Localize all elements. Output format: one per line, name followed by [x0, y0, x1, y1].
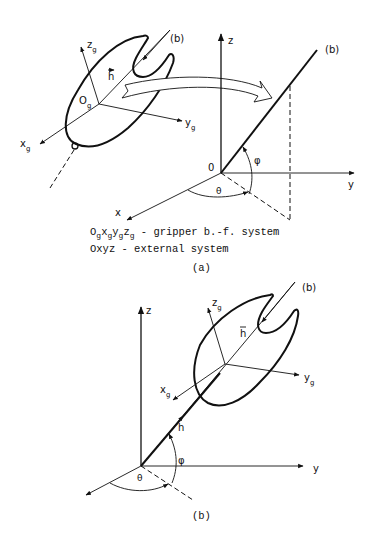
wrist-dashed-line — [50, 150, 74, 188]
phi-label-a: φ — [254, 155, 261, 166]
phi-label-b: φ — [178, 455, 185, 466]
phi-arc-b — [169, 434, 176, 483]
external-frame-a: z y x 0 (b) φ θ — [115, 34, 354, 220]
origin-label-a: 0 — [208, 162, 214, 173]
panel-label-b: (b) — [192, 510, 211, 522]
theta-arc-b — [110, 483, 168, 491]
yg-label: yg — [185, 117, 195, 132]
x-label-a: x — [115, 207, 121, 218]
projection-xy-dashed — [221, 173, 290, 220]
axis-b-label-a2: (b) — [325, 44, 339, 55]
axis-b-label-b: (b) — [302, 282, 316, 293]
xg-label-b: xg — [160, 384, 170, 399]
h-vector-label-b2: h — [178, 422, 184, 433]
legend-line-2: Oxyz - external system — [90, 243, 229, 255]
gripper-orientation-diagram: (b) zg yg xg Og h z y — [0, 0, 371, 538]
legend-a: Ogxgygzg - gripper b.-f. system Oxyz - e… — [90, 226, 279, 274]
panel-label-a: (a) — [192, 262, 211, 274]
b-axis-line-a — [221, 50, 317, 173]
xg-label: xg — [20, 138, 30, 153]
gripper-body-frame-a: (b) zg yg xg Og h — [20, 30, 195, 188]
axis-b-label-a1: (b) — [170, 33, 184, 44]
z-label-b: z — [146, 305, 151, 316]
y-label-b: y — [313, 463, 319, 474]
h-vector-label-a: h — [108, 71, 114, 82]
figure-b: z y (b) zg yg xg h h φ θ (b) — [86, 282, 319, 522]
og-label: Og — [79, 95, 91, 110]
yg-label-b: yg — [304, 372, 314, 387]
zg-axis-b — [208, 308, 225, 364]
theta-label-b: θ — [137, 473, 143, 483]
h-vector-label-b1: h — [240, 328, 246, 339]
approach-arrow — [143, 30, 170, 60]
zg-label-b: zg — [212, 297, 222, 312]
figure-a: (b) zg yg xg Og h z y — [20, 30, 354, 274]
legend-line-1: Ogxgygzg - gripper b.-f. system — [90, 226, 279, 240]
x-axis-b — [86, 466, 141, 495]
zg-label: zg — [87, 39, 97, 54]
projection-dashed-b — [141, 466, 193, 500]
gripper-outline-b — [194, 294, 298, 405]
theta-label-a: θ — [216, 186, 222, 196]
y-label-a: y — [348, 179, 354, 190]
gripper-outline — [66, 36, 174, 147]
yg-axis — [99, 104, 182, 121]
yg-axis-b — [225, 364, 299, 375]
phi-arc-a — [243, 147, 252, 194]
z-label-a: z — [228, 35, 233, 46]
transformation-arrow — [122, 77, 272, 102]
